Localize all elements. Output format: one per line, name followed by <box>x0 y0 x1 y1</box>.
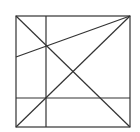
geometry-diagram <box>0 0 140 132</box>
line-left-edge-to-top-right <box>16 16 130 57</box>
